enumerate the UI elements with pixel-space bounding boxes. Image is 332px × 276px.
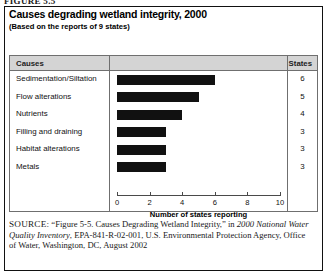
x-axis-tick xyxy=(150,192,151,196)
table-row: Filling and draining 3 xyxy=(10,124,317,142)
row-value: 4 xyxy=(287,109,318,118)
x-axis-tick xyxy=(280,192,281,196)
x-tick-label: 8 xyxy=(245,198,249,207)
figure-page: FIGURE 5.5 Causes degrading wetland inte… xyxy=(0,0,332,276)
table-row: Metals 3 xyxy=(10,159,317,177)
row-value: 3 xyxy=(287,162,318,171)
bar-rows: Sedimentation/Siltation 6 Flow alteratio… xyxy=(10,71,317,176)
row-label: Metals xyxy=(16,162,39,171)
source-text-part1: “Figure 5-5. Causes Degrading Wetland In… xyxy=(49,219,237,229)
row-label: Sedimentation/Siltation xyxy=(16,74,97,83)
header-divider-left xyxy=(109,56,110,70)
table-row: Habitat alterations 3 xyxy=(10,141,317,159)
x-axis-tick xyxy=(182,192,183,196)
chart-title: Causes degrading wetland integrity, 2000 xyxy=(9,8,309,20)
bar-0 xyxy=(117,75,215,85)
column-header-causes: Causes xyxy=(16,59,44,68)
row-label: Nutrients xyxy=(16,109,48,118)
table-row: Flow alterations 5 xyxy=(10,89,317,107)
row-label: Habitat alterations xyxy=(16,144,80,153)
chart-subtitle: (Based on the reports of 9 states) xyxy=(9,22,309,31)
row-label: Flow alterations xyxy=(16,92,71,101)
bar-2 xyxy=(117,110,182,120)
row-value: 6 xyxy=(287,74,318,83)
x-axis-title: Number of states reporting xyxy=(117,210,280,219)
x-tick-label: 4 xyxy=(180,198,184,207)
table-body: Sedimentation/Siltation 6 Flow alteratio… xyxy=(10,71,317,212)
row-value: 5 xyxy=(287,92,318,101)
row-value: 3 xyxy=(287,144,318,153)
bar-4 xyxy=(117,145,166,155)
table-header-row: Causes States xyxy=(10,56,317,71)
chart-table: Causes States Sedimentation/Siltation 6 … xyxy=(9,55,318,212)
x-axis-tick xyxy=(247,192,248,196)
table-row: Nutrients 4 xyxy=(10,106,317,124)
chart-heading-group: Causes degrading wetland integrity, 2000… xyxy=(9,8,309,31)
x-tick-label: 0 xyxy=(115,198,119,207)
table-row: Sedimentation/Siltation 6 xyxy=(10,71,317,89)
bar-3 xyxy=(117,127,166,137)
bar-1 xyxy=(117,92,199,102)
bar-5 xyxy=(117,162,166,172)
source-note: SOURCE: “Figure 5-5. Causes Degrading We… xyxy=(9,219,311,251)
x-axis-tick xyxy=(215,192,216,196)
row-label: Filling and draining xyxy=(16,127,82,136)
row-value: 3 xyxy=(287,127,318,136)
header-divider-right xyxy=(287,56,288,70)
x-axis-line xyxy=(117,195,280,196)
source-prefix: SOURCE: xyxy=(9,219,49,229)
column-header-states: States xyxy=(289,59,312,68)
x-tick-label: 10 xyxy=(276,198,284,207)
x-tick-label: 2 xyxy=(147,198,151,207)
x-axis-tick xyxy=(117,192,118,196)
x-tick-label: 6 xyxy=(213,198,217,207)
